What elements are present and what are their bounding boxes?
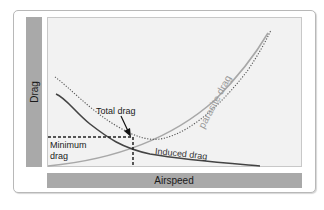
x-axis-label: Airspeed — [154, 175, 193, 186]
total-drag-curve — [55, 30, 271, 139]
minimum-drag-label-line2: drag — [50, 151, 68, 162]
total-drag-label: Total drag — [96, 106, 136, 117]
arrow-head-icon — [124, 128, 131, 137]
minimum-drag-label-line1: Minimum — [50, 140, 87, 151]
